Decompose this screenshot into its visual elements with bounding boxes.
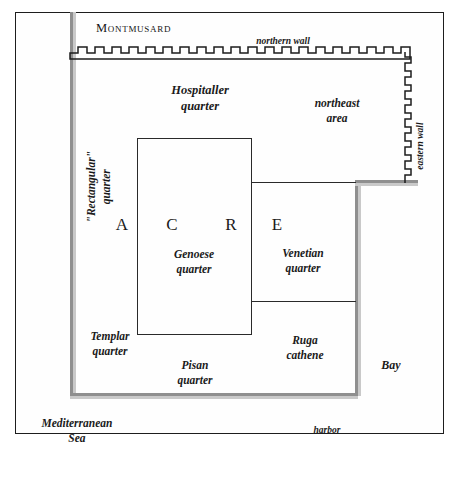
- label-genoese-line2: quarter: [174, 262, 214, 277]
- city-wall-south: [70, 393, 358, 396]
- label-northeast-line2: area: [315, 111, 360, 126]
- city-wall-southeast: [355, 180, 358, 396]
- acre-letter-e: E: [272, 215, 282, 235]
- acre-letter-a: A: [116, 215, 128, 235]
- label-venetian-line2: quarter: [282, 261, 324, 276]
- label-ruga-line1: Ruga: [286, 333, 323, 348]
- genoese-quarter-border-top: [137, 138, 252, 139]
- label-templar-line1: Templar: [90, 329, 129, 344]
- genoese-quarter-border-bottom: [137, 334, 252, 335]
- map-of-acre: Montmusard northern wall eastern wall Ho…: [0, 0, 459, 477]
- label-venetian-line1: Venetian: [282, 246, 324, 261]
- label-mediterranean-sea: Mediterranean Sea: [42, 416, 113, 445]
- label-northern-wall: northern wall: [256, 35, 310, 47]
- label-ruga-line2: cathene: [286, 348, 323, 363]
- label-hospitaller-line2: quarter: [171, 98, 229, 114]
- label-northeast-area: northeast area: [315, 96, 360, 125]
- genoese-quarter-border-left: [137, 138, 138, 335]
- label-harbor: harbor: [314, 424, 341, 436]
- label-bay: Bay: [381, 358, 400, 373]
- label-rectangular-quarter: "Rectangular" quarter: [84, 151, 113, 223]
- label-pisan-quarter: Pisan quarter: [177, 358, 212, 387]
- genoese-quarter-border-right: [251, 138, 252, 335]
- label-ruga-cathene: Ruga cathene: [286, 333, 323, 362]
- venetian-quarter-border-bottom: [251, 301, 356, 302]
- acre-letter-r: R: [225, 215, 236, 235]
- label-eastern-wall: eastern wall: [414, 122, 426, 169]
- label-pisan-line1: Pisan: [177, 358, 212, 373]
- northern-wall-crenellation-icon: [70, 46, 410, 62]
- label-genoese-quarter: Genoese quarter: [174, 247, 214, 276]
- label-rectangular-line2: quarter: [99, 151, 114, 223]
- label-hospitaller-line1: Hospitaller: [171, 82, 229, 98]
- label-venetian-quarter: Venetian quarter: [282, 246, 324, 275]
- label-northeast-line1: northeast: [315, 96, 360, 111]
- venetian-quarter-border-top: [251, 182, 356, 183]
- acre-letter-c: C: [166, 215, 177, 235]
- label-templar-quarter: Templar quarter: [90, 329, 129, 358]
- label-pisan-line2: quarter: [177, 373, 212, 388]
- label-rectangular-line1: "Rectangular": [84, 151, 99, 223]
- label-hospitaller-quarter: Hospitaller quarter: [171, 82, 229, 114]
- label-genoese-line1: Genoese: [174, 247, 214, 262]
- city-wall-west: [70, 12, 73, 396]
- label-mediterranean-line1: Mediterranean: [42, 416, 113, 431]
- label-mediterranean-line2: Sea: [42, 431, 113, 446]
- label-montmusard: Montmusard: [96, 20, 171, 36]
- label-templar-line2: quarter: [90, 344, 129, 359]
